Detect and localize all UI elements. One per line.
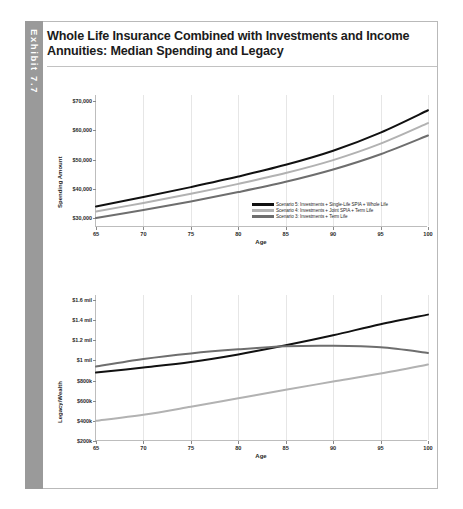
legend-item: Scenario 4: Investments + Joint SPIA + T… — [252, 208, 388, 213]
x-axis-tick-label: 70 — [140, 445, 146, 451]
gridline-vertical — [428, 295, 429, 440]
legend-item: Scenario 5: Investments + Single-Life SP… — [252, 202, 388, 207]
x-axis-tick-mark — [238, 227, 239, 230]
x-axis-tick-mark — [381, 441, 382, 444]
x-axis-tick-label: 90 — [330, 445, 336, 451]
legacy-wealth-chart: 65707580859095100$200k$400k$600k$800k$1 … — [47, 283, 435, 483]
x-axis-tick-mark — [428, 441, 429, 444]
x-axis-tick-mark — [381, 227, 382, 230]
x-axis-tick-label: 65 — [93, 445, 99, 451]
x-axis-tick-label: 85 — [283, 231, 289, 237]
series-line — [96, 346, 428, 367]
page-title: Whole Life Insurance Combined with Inves… — [47, 29, 437, 60]
x-axis-tick-mark — [96, 227, 97, 230]
x-axis-tick-label: 85 — [283, 445, 289, 451]
legend-item: Scenario 3: Investments + Term Life — [252, 214, 388, 219]
exhibit-number-label: Exhibit 7.7 — [29, 29, 40, 94]
x-axis-tick-mark — [238, 441, 239, 444]
x-axis-tick-label: 75 — [188, 445, 194, 451]
legacy-plot-area: 65707580859095100$200k$400k$600k$800k$1 … — [95, 295, 427, 441]
x-axis-tick-mark — [143, 227, 144, 230]
x-axis-tick-mark — [428, 227, 429, 230]
x-axis-tick-mark — [333, 441, 334, 444]
y-axis-tick-label: $1.6 mil — [50, 297, 92, 303]
x-axis-tick-label: 100 — [423, 445, 432, 451]
x-axis-tick-mark — [143, 441, 144, 444]
y-axis-tick-mark — [93, 441, 96, 442]
x-axis-tick-mark — [96, 441, 97, 444]
legend-item-label: Scenario 5: Investments + Single-Life SP… — [276, 202, 388, 207]
x-axis-tick-mark — [191, 227, 192, 230]
x-axis-tick-mark — [286, 227, 287, 230]
gridline-vertical — [428, 95, 429, 226]
x-axis-tick-label: 95 — [377, 231, 383, 237]
exhibit-number-tab: Exhibit 7.7 — [25, 21, 43, 489]
x-axis-tick-label: 80 — [235, 231, 241, 237]
y-axis-tick-label: $70,000 — [50, 98, 92, 104]
x-axis-tick-label: 75 — [188, 231, 194, 237]
y-axis-tick-label: $200k — [50, 438, 92, 444]
series-layer — [96, 295, 428, 441]
legend-color-swatch — [252, 203, 274, 205]
y-axis-tick-label: $30,000 — [50, 215, 92, 221]
x-axis-tick-label: 65 — [93, 231, 99, 237]
legend-color-swatch — [252, 215, 274, 217]
x-axis-tick-mark — [286, 441, 287, 444]
series-line — [96, 123, 428, 211]
figure-title-block: Whole Life Insurance Combined with Inves… — [47, 22, 437, 67]
x-axis-tick-label: 95 — [377, 445, 383, 451]
spending-x-axis-title: Age — [95, 239, 427, 245]
legend-item-label: Scenario 4: Investments + Joint SPIA + T… — [276, 208, 373, 213]
legend-item-label: Scenario 3: Investments + Term Life — [276, 214, 348, 219]
series-line — [96, 110, 428, 206]
x-axis-tick-label: 70 — [140, 231, 146, 237]
legacy-x-axis-title: Age — [95, 453, 427, 459]
x-axis-tick-label: 90 — [330, 231, 336, 237]
series-line — [96, 364, 428, 420]
x-axis-tick-label: 100 — [423, 231, 432, 237]
spending-y-axis-title: Spending Amount — [57, 118, 63, 208]
x-axis-tick-label: 80 — [235, 445, 241, 451]
spending-amount-chart: 65707580859095100$30,000$40,000$50,000$6… — [47, 82, 435, 250]
x-axis-tick-mark — [191, 441, 192, 444]
x-axis-tick-mark — [333, 227, 334, 230]
legacy-y-axis-title: Legacy/Wealth — [57, 323, 63, 423]
legend-color-swatch — [252, 209, 274, 211]
spending-chart-legend: Scenario 5: Investments + Single-Life SP… — [252, 202, 388, 219]
series-line — [96, 315, 428, 373]
exhibit-figure: Exhibit 7.7 Whole Life Insurance Combine… — [0, 0, 463, 509]
